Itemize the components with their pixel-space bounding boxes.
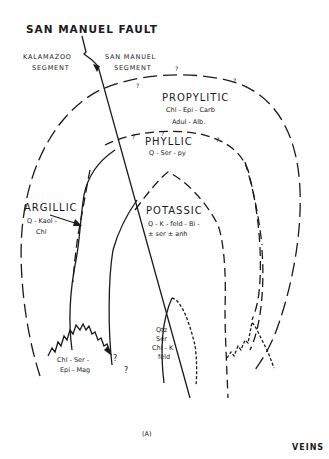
uncertainty-mark: ? xyxy=(113,354,117,363)
chl-ser-minerals-line2: Epi - Mag xyxy=(60,366,90,374)
uncertainty-mark: ? xyxy=(216,136,219,143)
right-vein-zigzag xyxy=(227,322,274,368)
phyllic-zone-label: PHYLLIC xyxy=(145,136,193,147)
potassic-minerals-line2: ± ser ± anh xyxy=(148,230,187,238)
inner-solid-contact xyxy=(109,250,113,365)
fault-title: SAN MANUEL FAULT xyxy=(26,23,158,35)
potassic-minerals-line1: Q - K - feld - Bi - xyxy=(148,220,200,228)
qtz-ser-minerals-line4: feld xyxy=(158,353,170,361)
panel-label: (A) xyxy=(142,430,152,438)
argillic-contact-solid xyxy=(70,150,115,350)
adularia-minerals: Adul - Alb. xyxy=(172,118,205,126)
uncertainty-mark: ? xyxy=(132,133,135,140)
potassic-zone-label: POTASSIC xyxy=(146,205,203,216)
kalamazoo-segment-label-line1: KALAMAZOO xyxy=(23,53,72,61)
argillic-minerals-line2: Chl xyxy=(36,228,47,236)
argillic-zone-label: ARGILLIC xyxy=(24,202,78,213)
uncertainty-mark: ? xyxy=(124,366,128,375)
uncertainty-mark: ? xyxy=(136,82,139,89)
san-manuel-segment-label-line1: SAN MANUEL xyxy=(105,53,156,61)
left-vein-zigzag xyxy=(48,324,110,356)
qtz-ser-minerals-line1: Qtz xyxy=(156,326,168,334)
inner-solid-contact-upper xyxy=(113,200,137,250)
propylitic-minerals: Chl - Epi - Carb xyxy=(166,106,215,114)
argillic-minerals-line1: Q - Kaol - xyxy=(27,217,58,225)
qtz-ser-core-dashed xyxy=(172,298,197,385)
phyllic-inner-boundary xyxy=(245,162,262,245)
veins-label: VEINS xyxy=(292,443,324,452)
kalamazoo-segment-label-line2: SEGMENT xyxy=(32,64,69,72)
chl-ser-minerals-line1: Chl - Ser - xyxy=(57,356,90,364)
uncertainty-mark: ? xyxy=(233,77,236,84)
propylitic-zone-label: PROPYLITIC xyxy=(162,92,229,103)
qtz-ser-minerals-line3: Chl - K xyxy=(152,344,174,352)
uncertainty-mark: ? xyxy=(175,65,178,72)
qtz-ser-minerals-line2: Ser xyxy=(156,335,167,343)
alteration-zoning-diagram: ? ? ? ? ? ? ? ? SAN MANUEL FAULT KALAMAZ… xyxy=(0,0,329,459)
phyllic-minerals: Q - Ser - py xyxy=(149,149,186,157)
san-manuel-segment-label-line2: SEGMENT xyxy=(114,64,151,72)
